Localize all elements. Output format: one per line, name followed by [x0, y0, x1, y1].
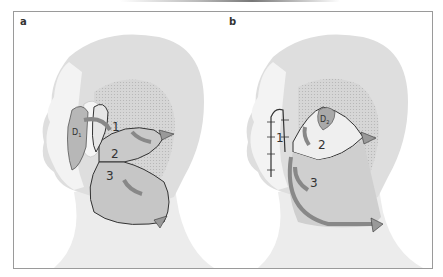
flap-number-2-b: 2: [318, 138, 326, 152]
head-illustration-a: D1 1 2 3: [14, 12, 223, 268]
flap-number-1-b: 1: [276, 131, 284, 145]
figure-frame: a D1: [13, 11, 433, 269]
flap-number-1-a: 1: [112, 120, 120, 134]
panel-b: b D2 1: [223, 12, 432, 268]
flap-number-3-a: 3: [106, 169, 114, 183]
top-decorative-line: [0, 0, 443, 3]
panel-a: a D1: [14, 12, 223, 268]
flap-number-2-a: 2: [111, 147, 119, 161]
head-illustration-b: D2 1 2 3: [223, 12, 432, 268]
flap-number-3-b: 3: [310, 176, 318, 190]
